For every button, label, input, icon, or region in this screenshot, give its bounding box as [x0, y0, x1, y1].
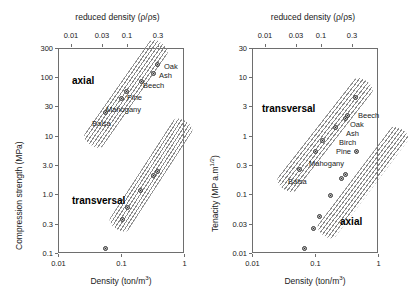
data-point-axial-6 — [343, 172, 348, 177]
top-tick-label-2: 0.1 — [308, 31, 334, 40]
data-point-axial-oak — [155, 62, 160, 67]
point-label-ash: Ash — [159, 71, 172, 80]
top-tick-label-2: 0.1 — [114, 31, 140, 40]
y-tick-5 — [249, 194, 252, 195]
point-label-beech: Beech — [358, 111, 379, 120]
y-tick-0 — [249, 48, 252, 49]
y-tick-6 — [55, 224, 58, 225]
top-tick-label-3: 0.3 — [339, 31, 365, 40]
x-tick-label-2: 1 — [170, 259, 199, 268]
x-tick-label-0: 0.01 — [44, 259, 73, 268]
plot-area: Beech Oak Ash Birch Pine Mahogany Balsa … — [252, 48, 378, 253]
data-point-transversal-oak — [345, 113, 350, 118]
x-tick-1 — [315, 254, 316, 257]
top-tick-label-0: 0.01 — [250, 31, 280, 40]
data-point-axial-1 — [302, 246, 307, 251]
top-tick-1 — [296, 44, 297, 47]
y-tick-label-5: 0.1 — [216, 190, 247, 199]
region-label-transversal: transversal — [262, 103, 315, 114]
y-tick-label-4: 3.0 — [22, 161, 53, 170]
y-tick-5 — [55, 194, 58, 195]
data-point-axial-mahogany — [119, 96, 124, 101]
top-tick-label-1: 0.03 — [87, 31, 117, 40]
y-tick-label-7: 0.01 — [213, 249, 247, 258]
region-label-transversal: transversal — [72, 195, 125, 206]
point-label-oak: Oak — [350, 120, 364, 129]
x-axis-title-tail: ) — [149, 276, 152, 286]
data-point-axial-ash — [151, 71, 156, 76]
data-point-transversal-balsa — [297, 167, 302, 172]
y-tick-label-6: 0.3 — [22, 220, 53, 229]
data-point-axial-2 — [311, 226, 316, 231]
y-tick-1 — [55, 77, 58, 78]
data-point-transversal-pine — [320, 138, 325, 143]
y-tick-4 — [249, 165, 252, 166]
top-tick-3 — [352, 44, 353, 47]
x-axis-title-tail: ) — [343, 276, 346, 286]
x-tick-label-1: 0.1 — [301, 259, 330, 268]
x-tick-2 — [184, 254, 185, 257]
top-tick-label-3: 0.3 — [145, 31, 171, 40]
top-tick-1 — [102, 44, 103, 47]
point-label-mahogany: Mahogany — [309, 159, 344, 168]
region-label-axial: axial — [72, 75, 94, 86]
region-label-axial: axial — [340, 216, 362, 227]
data-point-axial-7 — [354, 149, 359, 154]
point-label-mahogany: Mahogany — [106, 105, 141, 114]
top-tick-0 — [265, 44, 266, 47]
y-tick-3 — [249, 136, 252, 137]
x-tick-1 — [121, 254, 122, 257]
top-tick-2 — [127, 44, 128, 47]
y-axis-title: Tenacity (MP a.m1/2) — [208, 155, 220, 232]
y-tick-label-1: 10 — [216, 73, 247, 82]
point-label-beech: Beech — [143, 81, 164, 90]
y-tick-label-2: 30 — [22, 102, 53, 111]
point-label-ash: Ash — [346, 129, 359, 138]
point-label-balsa: Balsa — [92, 119, 111, 128]
y-tick-1 — [249, 77, 252, 78]
x-axis-title-main: Density (ton/m — [284, 276, 339, 286]
y-tick-2 — [55, 106, 58, 107]
data-point-transversal-3 — [125, 205, 130, 210]
top-axis-title: reduced density (ρ/ρs) — [40, 12, 195, 22]
point-label-balsa: Balsa — [288, 177, 307, 186]
x-axis-title: Density (ton/m3) — [252, 274, 378, 286]
x-axis-title: Density (ton/m3) — [58, 274, 184, 286]
y-tick-2 — [249, 106, 252, 107]
y-tick-3 — [55, 136, 58, 137]
x-tick-label-0: 0.01 — [238, 259, 267, 268]
x-axis-title-main: Density (ton/m — [90, 276, 145, 286]
y-axis-title-exponent: 1/2 — [208, 158, 215, 167]
y-tick-label-1: 100 — [22, 73, 53, 82]
top-tick-label-0: 0.01 — [56, 31, 86, 40]
x-tick-0 — [252, 254, 253, 257]
x-tick-2 — [378, 254, 379, 257]
x-tick-0 — [58, 254, 59, 257]
x-tick-label-2: 1 — [364, 259, 393, 268]
point-label-birch: Birch — [339, 138, 356, 147]
y-tick-label-0: 30 — [216, 44, 247, 53]
top-tick-label-1: 0.03 — [281, 31, 311, 40]
data-point-axial-5 — [339, 176, 344, 181]
y-axis-title-main: Tenacity (MP a.m — [210, 166, 220, 232]
point-label-oak: Oak — [164, 62, 178, 71]
top-axis-title: reduced density (ρ/ρs) — [233, 12, 393, 22]
y-tick-0 — [55, 48, 58, 49]
data-point-transversal-2 — [120, 217, 125, 222]
y-tick-4 — [55, 165, 58, 166]
chart-panel-compression: reduced density (ρ/ρs) 0.01 0.03 0.1 0.3 — [0, 0, 199, 297]
top-tick-0 — [71, 44, 72, 47]
data-point-axial-4 — [328, 193, 333, 198]
data-point-transversal-mahogany — [313, 149, 318, 154]
y-axis-title: Compression strength (MPa) — [14, 141, 24, 250]
plot-area: Oak Ash Beech Pine Mahogany Balsa axial … — [58, 48, 184, 253]
y-tick-label-4: 0.3 — [216, 161, 247, 170]
y-tick-label-3: 1 — [216, 132, 247, 141]
y-tick-label-3: 10 — [22, 132, 53, 141]
point-label-pine: Pine — [336, 147, 351, 156]
top-tick-2 — [321, 44, 322, 47]
y-axis-title-tail: ) — [210, 155, 220, 158]
y-tick-label-2: 3 — [216, 102, 247, 111]
y-tick-6 — [249, 224, 252, 225]
